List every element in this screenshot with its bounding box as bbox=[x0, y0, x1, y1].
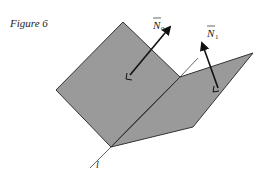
label-n0: N 0 bbox=[152, 18, 165, 33]
svg-text:1: 1 bbox=[215, 33, 219, 41]
label-line-l: l bbox=[96, 159, 99, 170]
svg-text:0: 0 bbox=[161, 25, 165, 33]
line-l-lower bbox=[90, 147, 111, 168]
svg-text:N: N bbox=[152, 19, 161, 31]
svg-text:N: N bbox=[206, 27, 215, 39]
dihedral-angle-diagram: N 0 N 1 l bbox=[0, 0, 275, 173]
label-n1: N 1 bbox=[206, 26, 219, 41]
